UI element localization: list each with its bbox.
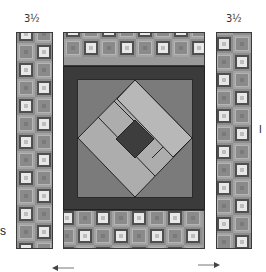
- pattern-tile: [216, 71, 233, 89]
- pattern-tile: [82, 39, 100, 57]
- pattern-tile: [216, 233, 233, 249]
- pattern-tile: [35, 79, 53, 97]
- pattern-tile: [76, 245, 94, 249]
- pattern-tile: [100, 32, 118, 39]
- pattern-tile: [112, 227, 130, 245]
- arrow-right-icon: [198, 262, 220, 268]
- pattern-tile: [130, 227, 148, 245]
- pattern-tile: [166, 245, 184, 249]
- pattern-tile: [64, 39, 82, 57]
- pattern-tile: [17, 223, 35, 241]
- pattern-tile: [216, 179, 233, 197]
- pattern-tile: [17, 79, 35, 97]
- pattern-tile: [17, 205, 35, 223]
- pattern-tile: [94, 227, 112, 245]
- pattern-tile: [233, 161, 251, 179]
- pattern-tile: [190, 32, 205, 39]
- pattern-tile: [35, 151, 53, 169]
- right-edge-text-fragment: I: [259, 124, 262, 135]
- pattern-tile: [17, 61, 35, 79]
- pattern-tile: [148, 245, 166, 249]
- pattern-tile: [35, 169, 53, 187]
- center-bottom-tile-border: [63, 210, 205, 249]
- pattern-tile: [233, 179, 251, 197]
- pattern-tile: [63, 210, 76, 227]
- pattern-tile: [76, 210, 94, 227]
- right-border-strip: [216, 32, 252, 249]
- pattern-tile: [148, 210, 166, 227]
- pattern-tile: [233, 125, 251, 143]
- right-strip-width-label: 3½: [226, 12, 241, 25]
- pattern-tile: [17, 169, 35, 187]
- pattern-tile: [64, 32, 82, 39]
- pattern-tile: [17, 32, 35, 43]
- pattern-tile: [94, 245, 112, 249]
- pattern-tile: [233, 89, 251, 107]
- on-point-diamond: [77, 79, 193, 198]
- pattern-tile: [35, 223, 53, 241]
- pattern-tile: [76, 227, 94, 245]
- pattern-tile: [112, 245, 130, 249]
- arrow-left-icon: [52, 265, 74, 271]
- pattern-tile: [35, 205, 53, 223]
- pattern-tile: [136, 32, 154, 39]
- pattern-tile: [233, 197, 251, 215]
- pattern-tile: [118, 32, 136, 39]
- left-border-strip: [16, 32, 53, 249]
- pattern-tile: [17, 241, 35, 249]
- pattern-tile: [136, 39, 154, 57]
- pattern-tile: [130, 245, 148, 249]
- pattern-tile: [35, 61, 53, 79]
- pattern-tile: [233, 233, 251, 249]
- pattern-tile: [17, 43, 35, 61]
- pattern-tile: [63, 227, 76, 245]
- pattern-tile: [17, 115, 35, 133]
- pattern-tile: [17, 151, 35, 169]
- left-edge-text-fragment: s: [0, 224, 6, 238]
- pattern-tile: [63, 245, 76, 249]
- pattern-tile: [216, 215, 233, 233]
- pattern-tile: [233, 53, 251, 71]
- pattern-tile: [154, 39, 172, 57]
- pattern-tile: [148, 227, 166, 245]
- pattern-tile: [112, 210, 130, 227]
- pattern-tile: [35, 115, 53, 133]
- pattern-tile: [216, 53, 233, 71]
- pattern-tile: [184, 245, 202, 249]
- pattern-tile: [233, 71, 251, 89]
- pattern-tile: [216, 161, 233, 179]
- left-strip-width-label: 3½: [24, 12, 39, 25]
- pattern-tile: [172, 32, 190, 39]
- center-top-tile-border: [63, 32, 205, 66]
- pattern-tile: [82, 32, 100, 39]
- pattern-tile: [216, 125, 233, 143]
- pattern-tile: [166, 210, 184, 227]
- pattern-tile: [35, 32, 53, 43]
- pattern-tile: [35, 97, 53, 115]
- pattern-tile: [35, 133, 53, 151]
- pattern-tile: [35, 187, 53, 205]
- pattern-tile: [216, 35, 233, 53]
- pattern-tile: [184, 210, 202, 227]
- pattern-tile: [233, 143, 251, 161]
- pattern-tile: [166, 227, 184, 245]
- pattern-tile: [184, 227, 202, 245]
- left-arrow: [52, 257, 74, 263]
- pattern-tile: [154, 32, 172, 39]
- pattern-tile: [233, 107, 251, 125]
- pattern-tile: [35, 241, 53, 249]
- pattern-tile: [94, 210, 112, 227]
- pattern-tile: [130, 210, 148, 227]
- right-arrow: [198, 254, 220, 260]
- pattern-tile: [216, 143, 233, 161]
- pattern-tile: [233, 35, 251, 53]
- pattern-tile: [100, 39, 118, 57]
- pattern-tile: [17, 97, 35, 115]
- pattern-tile: [35, 43, 53, 61]
- pattern-tile: [216, 197, 233, 215]
- pattern-tile: [216, 89, 233, 107]
- pattern-tile: [17, 187, 35, 205]
- pattern-tile: [17, 133, 35, 151]
- pattern-tile: [118, 39, 136, 57]
- pattern-tile: [216, 107, 233, 125]
